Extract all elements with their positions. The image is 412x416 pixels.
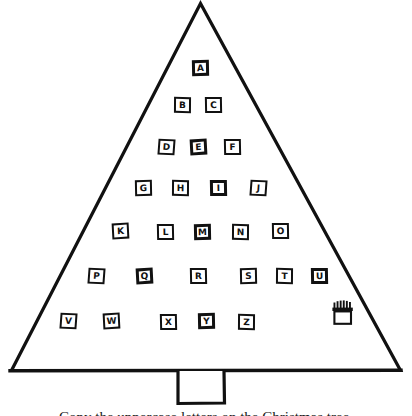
letter-tile-d[interactable]: D — [157, 139, 175, 156]
letter-tile-b[interactable]: B — [174, 97, 191, 114]
letter-tile-n[interactable]: N — [232, 224, 249, 241]
tree-trunk-path — [178, 371, 225, 404]
letter-tile-w[interactable]: W — [103, 312, 121, 329]
letter-tile-z[interactable]: Z — [238, 314, 255, 331]
letter-tile-x[interactable]: X — [160, 314, 177, 330]
worksheet-canvas: ABCDEFGHIJKLMNOPQRSTUVWXYZ Copy the uppe… — [0, 0, 412, 416]
letter-tile-r[interactable]: R — [190, 268, 207, 284]
letter-tile-u[interactable]: U — [311, 268, 328, 284]
letter-tile-s[interactable]: S — [240, 268, 257, 285]
tree-base-line — [10, 370, 401, 371]
gift-basket-icon — [331, 300, 355, 326]
letter-tile-f[interactable]: F — [224, 139, 241, 155]
letter-tile-e[interactable]: E — [190, 138, 208, 155]
letter-tile-c[interactable]: C — [205, 97, 222, 113]
letter-tile-y[interactable]: Y — [198, 313, 215, 330]
letter-tile-g[interactable]: G — [135, 180, 152, 197]
letter-tile-k[interactable]: K — [112, 222, 130, 239]
letter-tile-m[interactable]: M — [194, 224, 211, 241]
letter-tile-i[interactable]: I — [210, 180, 227, 196]
letter-tile-a[interactable]: A — [192, 60, 209, 77]
letter-tile-v[interactable]: V — [59, 313, 77, 330]
letter-tile-j[interactable]: J — [249, 180, 267, 197]
letter-tile-p[interactable]: P — [87, 268, 105, 285]
worksheet-caption: Copy the uppercase letters on the Christ… — [0, 404, 412, 416]
letter-tile-l[interactable]: L — [157, 224, 174, 240]
letter-tile-h[interactable]: H — [172, 180, 189, 197]
letter-tile-q[interactable]: Q — [136, 267, 154, 284]
letter-tile-o[interactable]: O — [272, 223, 289, 239]
letter-tile-t[interactable]: T — [276, 268, 293, 285]
